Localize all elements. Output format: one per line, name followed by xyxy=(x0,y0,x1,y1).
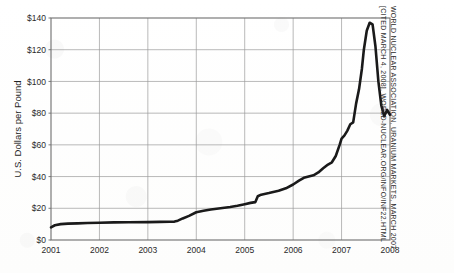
x-tick-label: 2006 xyxy=(284,245,303,255)
y-tick-label: $40 xyxy=(32,172,46,182)
y-axis-title: U.S. Dollars per Pound xyxy=(12,80,23,177)
data-series xyxy=(51,23,390,228)
grid-lines xyxy=(51,18,390,240)
x-tick-label: 2002 xyxy=(90,245,109,255)
y-tick-label: $60 xyxy=(32,140,46,150)
plot-frame xyxy=(51,18,390,240)
x-axis-ticks: 20012002200320042005200620072008 xyxy=(42,245,400,255)
citation-line-2: [cited March 4, 2008], world-nuclear.org… xyxy=(378,6,388,246)
x-tick-label: 2007 xyxy=(332,245,351,255)
y-tick-label: $140 xyxy=(27,13,46,23)
citation-line-1: World Nuclear Association, Uranium Marke… xyxy=(388,6,398,246)
y-tick-label: $100 xyxy=(27,77,46,87)
x-tick-label: 2005 xyxy=(235,245,254,255)
y-axis-title-text: U.S. Dollars per Pound xyxy=(12,80,23,177)
y-tick-label: $20 xyxy=(32,203,46,213)
y-tick-label: $0 xyxy=(37,235,47,245)
x-tick-label: 2001 xyxy=(42,245,61,255)
x-tick-label: 2003 xyxy=(138,245,157,255)
y-tick-label: $80 xyxy=(32,108,46,118)
x-tick-label: 2004 xyxy=(187,245,206,255)
y-axis-ticks: $0$20$40$60$80$100$120$140 xyxy=(27,13,51,245)
y-tick-label: $120 xyxy=(27,45,46,55)
source-citation: World Nuclear Association, Uranium Marke… xyxy=(352,6,398,246)
